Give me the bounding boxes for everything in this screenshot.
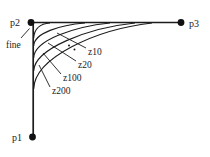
curve-fine bbox=[34, 23, 50, 38]
diagram-canvas: p2 p3 p1 fine z10 z20 z100 z200 bbox=[0, 0, 210, 157]
point-p2-label: p2 bbox=[10, 17, 20, 28]
point-p3-dot bbox=[178, 19, 185, 26]
leader-z10 bbox=[57, 33, 86, 48]
leader-z100 bbox=[43, 53, 61, 74]
curve-z200-label: z200 bbox=[52, 86, 71, 96]
ellipsis-dot-1 bbox=[68, 45, 70, 47]
curve-z10-label: z10 bbox=[88, 47, 102, 57]
corner-convergence-diagram: p2 p3 p1 fine z10 z20 z100 z200 bbox=[0, 0, 210, 157]
point-p1-label: p1 bbox=[12, 132, 22, 143]
point-p2-dot bbox=[28, 19, 35, 26]
curve-fine-label: fine bbox=[6, 40, 21, 50]
leader-z200 bbox=[39, 65, 50, 87]
point-p1-dot bbox=[29, 134, 36, 141]
curve-z20-label: z20 bbox=[78, 60, 92, 70]
leader-z20 bbox=[48, 43, 76, 61]
curve-z100-label: z100 bbox=[63, 73, 82, 83]
leader-fine bbox=[21, 29, 30, 39]
ellipsis-dot-2 bbox=[74, 49, 76, 51]
point-p3-label: p3 bbox=[189, 18, 199, 29]
